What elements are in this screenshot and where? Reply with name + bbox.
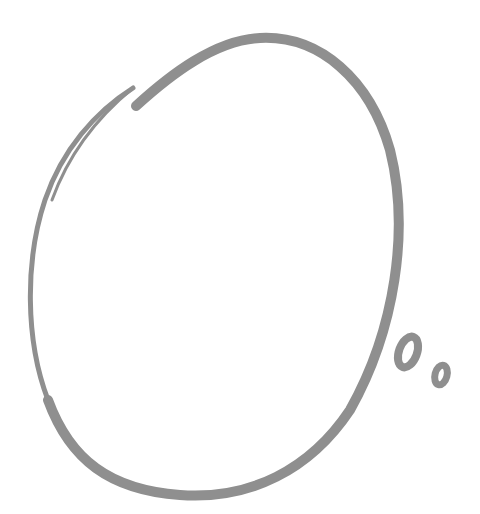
thought-bubble: [0, 0, 480, 514]
bubble-outline-thin: [30, 88, 133, 400]
small-bubble-large: [394, 334, 422, 370]
bubble-outline-taper: [52, 88, 133, 200]
small-bubble-small: [433, 364, 450, 386]
bubble-outline-thick: [48, 38, 399, 496]
